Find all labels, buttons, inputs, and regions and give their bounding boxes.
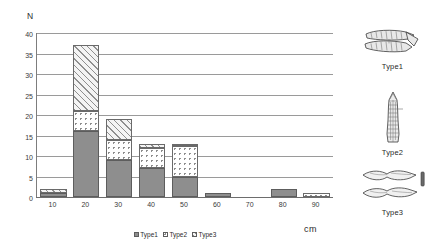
bar-segment-20-type3[interactable]: [73, 45, 99, 111]
bar-segment-50-type2[interactable]: [172, 146, 198, 177]
legend-swatch-type3: [192, 232, 197, 237]
x-tick-label-80: 80: [279, 201, 287, 208]
chart-page: N 0510152025303540 102030405060708090 cm…: [0, 0, 435, 252]
y-tick-label-10: 10: [25, 154, 33, 161]
y-tick-label-40: 40: [25, 31, 33, 38]
x-tick-label-60: 60: [213, 201, 221, 208]
legend-swatch-type1: [134, 232, 139, 237]
legend-label-type3: Type3: [199, 231, 217, 238]
y-tick-label-30: 30: [25, 72, 33, 79]
artifact-figure-type2: Type2: [350, 90, 435, 157]
artifact-figures-panel: Type1 Type2: [350, 0, 435, 252]
y-tick-label-15: 15: [25, 133, 33, 140]
legend-label-type1: Type1: [140, 231, 158, 238]
legend-item-type3: Type3: [192, 231, 216, 238]
bar-group-30[interactable]: [106, 119, 132, 197]
bar-segment-30-type2[interactable]: [106, 140, 132, 161]
y-tick-label-20: 20: [25, 113, 33, 120]
bar-group-40[interactable]: [139, 144, 165, 197]
bar-group-10[interactable]: [40, 189, 66, 197]
artifact-caption-type1: Type1: [350, 62, 435, 71]
legend-label-type2: Type2: [169, 231, 187, 238]
y-tick-label-5: 5: [29, 174, 33, 181]
x-tick-label-20: 20: [81, 201, 89, 208]
y-tick-label-25: 25: [25, 92, 33, 99]
x-axis-line: [36, 197, 332, 198]
x-tick-label-40: 40: [147, 201, 155, 208]
bar-segment-30-type1[interactable]: [106, 160, 132, 197]
y-axis-title: N: [27, 11, 33, 21]
x-tick-label-90: 90: [312, 201, 320, 208]
stone-blade-artifact-icon: [362, 26, 424, 60]
legend-item-type2: Type2: [163, 231, 187, 238]
x-tick-label-30: 30: [114, 201, 122, 208]
x-tick-label-50: 50: [180, 201, 188, 208]
bar-segment-50-type1[interactable]: [172, 177, 198, 198]
artifact-caption-type2: Type2: [350, 148, 435, 157]
bar-segment-20-type2[interactable]: [73, 111, 99, 132]
artifact-figure-type1: Type1: [350, 26, 435, 71]
x-tick-label-70: 70: [246, 201, 254, 208]
bar-group-80[interactable]: [271, 189, 297, 197]
bar-segment-40-type2[interactable]: [139, 148, 165, 169]
legend-swatch-type2: [163, 232, 168, 237]
histogram-chart: N 0510152025303540 102030405060708090 cm…: [0, 0, 350, 252]
chart-legend: Type1 Type2 Type3: [0, 231, 350, 238]
bars-layer: [37, 33, 332, 197]
bar-segment-30-type3[interactable]: [106, 119, 132, 140]
y-tick-label-0: 0: [29, 195, 33, 202]
stone-flake-artifact-icon: [358, 166, 428, 206]
artifact-caption-type3: Type3: [350, 208, 435, 217]
bar-group-20[interactable]: [73, 45, 99, 197]
bar-group-50[interactable]: [172, 144, 198, 197]
artifact-figure-type3: Type3: [350, 166, 435, 217]
bar-segment-80-type1[interactable]: [271, 189, 297, 197]
stone-point-artifact-icon: [376, 90, 410, 146]
y-tick-label-35: 35: [25, 51, 33, 58]
legend-item-type1: Type1: [134, 231, 158, 238]
bar-segment-40-type1[interactable]: [139, 168, 165, 197]
x-tick-label-10: 10: [49, 201, 57, 208]
plot-area: 0510152025303540: [36, 33, 332, 197]
bar-segment-20-type1[interactable]: [73, 131, 99, 197]
